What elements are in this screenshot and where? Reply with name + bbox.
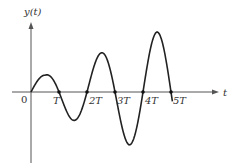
tick-labels: T2T3T4T5T (53, 95, 187, 106)
y-axis-arrow-icon (29, 22, 34, 29)
tick-label: 2T (88, 95, 103, 106)
zero-crossing-dot (113, 90, 117, 94)
signal-diagram: y(t) t 0 T2T3T4T5T (0, 0, 235, 168)
x-axis-arrow-icon (212, 90, 219, 95)
zero-crossing-dot (85, 90, 89, 94)
zero-crossing-dot (169, 90, 173, 94)
signal-curve (31, 32, 172, 145)
zero-crossing-dot (141, 90, 145, 94)
tick-label: 5T (173, 95, 187, 106)
x-axis-label: t (223, 87, 228, 98)
origin-label: 0 (21, 94, 27, 105)
y-axis-label: y(t) (23, 6, 42, 17)
tick-label: T (53, 95, 61, 106)
tick-label: 3T (117, 95, 131, 106)
zero-crossing-dot (57, 90, 61, 94)
tick-label: 4T (144, 95, 159, 106)
